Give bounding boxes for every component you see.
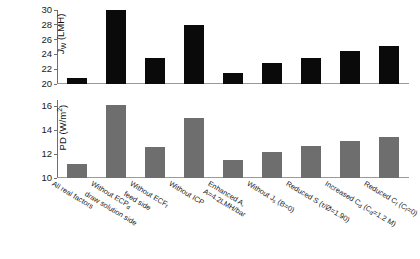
y-axis-tick-label: 14 (41, 125, 52, 135)
y-axis-tick-label: 16 (41, 101, 52, 111)
x-axis-category-label: Without ICP (167, 179, 206, 207)
bar (106, 105, 126, 178)
bar (184, 118, 204, 178)
chart-panel-bottom: PD (W/m2) 10121416 (57, 100, 409, 178)
bar-group-top (57, 10, 409, 84)
bar (223, 73, 243, 84)
bar (145, 147, 165, 178)
y-axis-tick-label: 28 (41, 20, 52, 30)
bar (340, 51, 360, 84)
y-axis-tick-label: 22 (41, 64, 52, 74)
bar (145, 58, 165, 84)
bar (301, 146, 321, 178)
bar (379, 137, 399, 178)
bar (67, 78, 87, 84)
bar (379, 46, 399, 84)
x-axis-category-label: Reduced S (τ/Ø=1.90) (284, 179, 351, 224)
y-axis-tick-label: 10 (41, 173, 52, 183)
x-axis-category-label: Enhanced A,A=4.2LMH/bar (202, 179, 253, 219)
bar (262, 152, 282, 178)
bar (106, 10, 126, 84)
bar (223, 160, 243, 178)
bar (262, 63, 282, 84)
bar (184, 25, 204, 84)
y-axis-tick-label: 26 (41, 35, 52, 45)
x-axis-category-labels: All real factorsWithout ECPddraw solutio… (57, 179, 409, 259)
chart-panel-top: JW (LMH) 202224262830 (57, 10, 409, 84)
y-axis-tick-label: 12 (41, 149, 52, 159)
y-axis-tick-label: 20 (41, 79, 52, 89)
bar (301, 58, 321, 84)
bar (340, 141, 360, 178)
y-axis-tick-label: 30 (41, 5, 52, 15)
y-axis-tick-label: 24 (41, 49, 52, 59)
bar (67, 164, 87, 178)
bar-group-bottom (57, 100, 409, 178)
